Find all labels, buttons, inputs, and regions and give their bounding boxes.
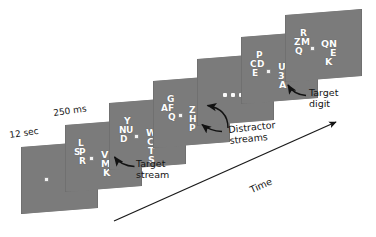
fixation-point-6	[267, 70, 270, 73]
duration-label-frame: 250 ms	[53, 103, 88, 118]
stream-letter: U	[126, 126, 133, 135]
stream-letter: Q	[295, 47, 303, 56]
target-digit-label: Target digit	[309, 88, 338, 109]
stream-letter: E	[252, 69, 258, 78]
time-axis-label: Time	[248, 176, 274, 196]
fixation-point-7	[311, 47, 314, 50]
stream-letter: P	[189, 124, 196, 133]
stream-letter: D	[120, 135, 127, 144]
ellipsis-dots	[223, 93, 243, 97]
stream-letter: A	[161, 104, 168, 113]
target-stream-label: Target stream	[136, 159, 169, 180]
ellipsis-dot	[223, 93, 227, 97]
fixation-point-3	[135, 135, 138, 138]
fixation-point-1	[45, 178, 48, 181]
stream-letter: R	[79, 157, 86, 166]
fixation-point-2	[90, 157, 93, 160]
fixation-point-4	[179, 114, 182, 117]
stream-letter: D	[257, 60, 264, 69]
figure-canvas: 12 sec L S P R V M A K 250 ms Y N U D W …	[0, 0, 376, 237]
stream-letter: Q	[321, 39, 329, 49]
stream-letter: K	[325, 57, 332, 67]
stream-letter: Q	[168, 113, 176, 122]
duration-label-fixation: 12 sec	[9, 126, 40, 140]
ellipsis-dot	[231, 93, 235, 97]
distractor-streams-label: Distractor streams	[228, 120, 277, 146]
